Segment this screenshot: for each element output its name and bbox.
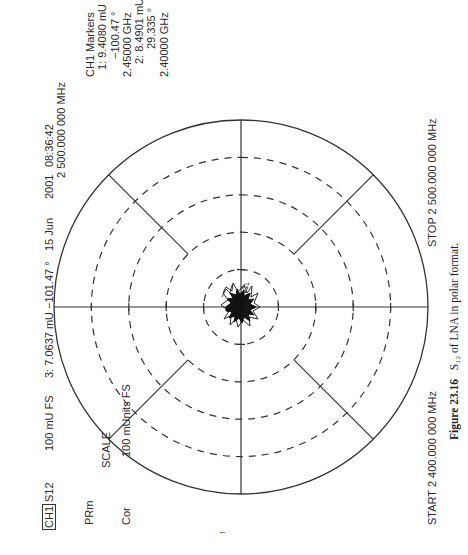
markers-title: CH1 Markers [84,0,96,77]
scale-label: SCALE [100,432,112,468]
arrow-icon: ↑ [216,531,228,536]
marker-frequency: 2 500.000 000 MHz [55,82,67,178]
marker-line: 2.40000 GHz [158,0,170,77]
instrument-display: 1 2 3 CH1 S12 100 mU FS 3: 7.0637 mU −10… [0,0,468,555]
date-year: 2001 [43,175,55,199]
figure-text: S₁₂ of LNA in polar format. [448,243,460,370]
channel-indicator[interactable]: CH1 [42,504,56,530]
prm-label: PRm [83,501,95,525]
marker3-readout: 3: 7.0637 mU −101.47 ° [43,261,55,378]
marker-3-label: 3 [245,307,252,311]
start-frequency: START 2 400.000 000 MHz [426,391,438,525]
date-day: 15 Jun [43,218,55,251]
time: 08:36:42 [43,124,55,167]
parameter-label: S12 [43,482,55,502]
marker-line: 1: 9.4080 mU [96,0,108,77]
polar-chart: 1 2 3 [0,0,468,555]
s12-trace [221,283,260,327]
marker-line: 2: 8.4901 mU [133,0,145,77]
cor-label: Cor [120,507,132,525]
marker-line: −100.47 ° [109,0,121,77]
scale-readout: 100 mU FS [43,395,55,451]
stop-frequency: STOP 2 500.000 000 MHz [426,118,438,247]
marker-2-label: 2 [243,315,250,319]
markers-panel: CH1 Markers 1: 9.4080 mU −100.47 ° 2.450… [84,0,170,77]
marker-line: 29.335 ° [145,0,157,77]
marker-line: 2.45000 GHz [121,0,133,77]
figure-label: Figure 23.16 [448,379,460,440]
scale-value: 100 mUnits FS [120,384,132,457]
marker-1-label: 1 [243,282,250,286]
figure-caption: Figure 23.16 S₁₂ of LNA in polar format. [448,243,460,440]
